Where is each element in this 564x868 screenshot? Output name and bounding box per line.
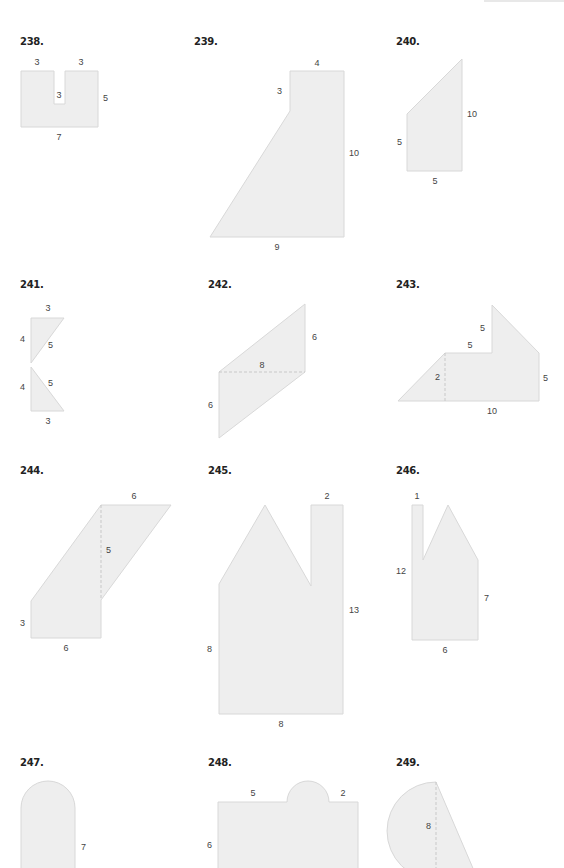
- label-height: 8: [426, 821, 431, 831]
- semicircle-triangle: [387, 782, 478, 868]
- figure-249: 8: [0, 0, 564, 868]
